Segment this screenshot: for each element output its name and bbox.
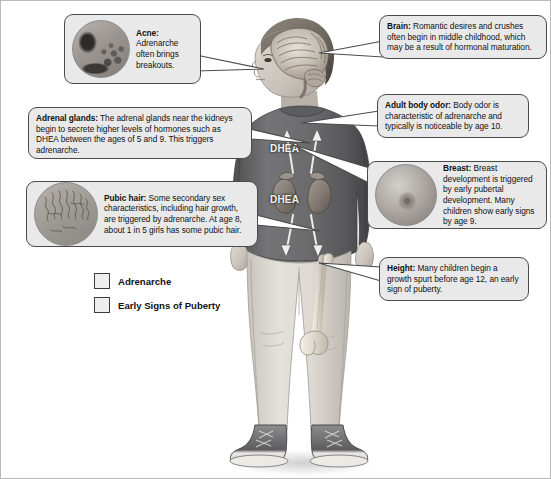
breast-thumbnail-image [375, 164, 437, 226]
callout-acne-heading: Acne: [136, 28, 159, 38]
callout-brain: Brain: Romantic desires and crushes ofte… [379, 15, 547, 59]
connector-pubic-hair [256, 213, 322, 239]
connector-breast [293, 141, 375, 191]
callout-acne-text: Acne: Adrenarche often brings breakouts. [136, 28, 193, 70]
callout-adrenal-glands: Adrenal glands: The adrenal glands near … [28, 107, 252, 159]
callout-breast: Breast: Breast development is triggered … [367, 161, 547, 229]
callout-adrenal-glands-text: Adrenal glands: The adrenal glands near … [36, 113, 244, 155]
acne-thumbnail-image [72, 20, 130, 78]
callout-adult-body-odor: Adult body odor: Body odor is characteri… [377, 94, 529, 138]
diagram-canvas: DHEA DHEA Acne: Adrenarche often brings … [0, 0, 551, 479]
legend: Adrenarche Early Signs of Puberty [94, 273, 220, 321]
callout-breast-text: Breast: Breast development is triggered … [443, 163, 539, 227]
pubic-hair-thumbnail-image [34, 182, 98, 246]
callout-height-text: Height: Many children begin a growth spu… [387, 263, 521, 295]
callout-acne: Acne: Adrenarche often brings breakouts. [64, 14, 201, 84]
callout-height: Height: Many children begin a growth spu… [379, 257, 529, 301]
connector-height [319, 259, 383, 289]
callout-pubic-hair-text: Pubic hair: Some secondary sex character… [104, 193, 250, 235]
connector-brain [319, 37, 385, 63]
connector-acne [196, 49, 266, 75]
callout-brain-text: Brain: Romantic desires and crushes ofte… [387, 21, 539, 53]
callout-acne-body: Adrenarche often brings breakouts. [136, 38, 179, 69]
callout-adult-body-odor-text: Adult body odor: Body odor is characteri… [385, 100, 521, 132]
callout-pubic-hair: Pubic hair: Some secondary sex character… [26, 181, 258, 247]
callout-height-heading: Height: [387, 263, 415, 273]
connector-adult-body-odor [301, 109, 381, 133]
legend-label-early-signs-of-puberty: Early Signs of Puberty [118, 300, 220, 311]
callout-brain-heading: Brain: [387, 21, 411, 31]
dhea-label-lower: DHEA [270, 194, 299, 205]
callout-breast-heading: Breast: [443, 163, 471, 173]
callout-adult-body-odor-heading: Adult body odor: [385, 100, 451, 110]
callout-pubic-hair-heading: Pubic hair: [104, 193, 146, 203]
callout-adrenal-glands-heading: Adrenal glands: [36, 113, 98, 123]
legend-swatch-adrenarche [94, 273, 110, 289]
legend-swatch-early-signs-of-puberty [94, 297, 110, 313]
legend-label-adrenarche: Adrenarche [118, 276, 171, 287]
legend-item-adrenarche: Adrenarche [94, 273, 220, 289]
legend-item-early-signs-of-puberty: Early Signs of Puberty [94, 297, 220, 313]
